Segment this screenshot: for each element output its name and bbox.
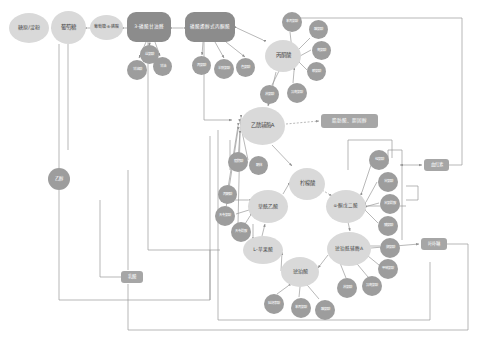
node-sca[interactable]: 琥珀酰辅酶A [327, 232, 371, 266]
node-s27[interactable]: 酪氨酸 [315, 300, 335, 320]
node-s20[interactable]: 脯氨酸 [378, 216, 398, 236]
node-label: 叶卟啉 [427, 242, 441, 247]
node-akg[interactable]: α-酮戊二酸 [326, 190, 366, 223]
node-s8[interactable]: 酪氨酸 [309, 20, 328, 39]
node-label: 酪氨酸 [320, 308, 331, 312]
node-fatchol[interactable]: 脂肪酸、胆固醇 [321, 114, 378, 128]
node-label: 酪氨酸 [313, 28, 324, 32]
node-accoa[interactable]: 乙酰辅酶A [240, 107, 285, 145]
node-s9[interactable]: 亮氨酸 [312, 41, 331, 60]
node-label: 糖原/淀粉 [17, 25, 41, 30]
node-s6[interactable]: 色氨酸 [236, 58, 255, 77]
node-label: 丙氨酸 [196, 64, 207, 68]
node-pyr[interactable]: 丙酮酸 [265, 40, 301, 72]
node-label: 甲硫氨酸 [381, 267, 395, 270]
node-label: 甘油酸 [132, 68, 143, 72]
node-label: 赖氨酸 [311, 70, 322, 74]
node-label: 草酰乙酸 [257, 204, 279, 209]
node-s17[interactable]: 天冬酰胺 [231, 222, 251, 242]
node-label: 丝氨酸 [144, 53, 155, 57]
node-label: 延胡索酸 [267, 302, 281, 305]
node-g1[interactable]: 糖原/淀粉 [9, 13, 49, 43]
node-label: 谷氨酸 [383, 180, 394, 184]
node-s16[interactable]: 天冬氨酸 [215, 206, 235, 226]
node-mal[interactable]: L-苹果酸 [243, 236, 283, 264]
pathway-diagram-canvas: 糖原/淀粉葡萄糖葡萄糖-6-磷酸3-磷酸甘油醛磷酸烯醇式丙酮酸丙酮酸乙酰辅酶A柠… [0, 0, 482, 341]
node-s4[interactable]: 丙氨酸 [192, 56, 211, 75]
node-s15[interactable]: 丙酮酸 [218, 185, 237, 204]
node-label: 天冬酰胺 [234, 230, 248, 233]
node-suc[interactable]: 琥珀酸 [281, 257, 319, 287]
node-s25[interactable]: 苏氨酸 [337, 278, 357, 298]
node-label: 3-磷酸甘油醛 [133, 25, 165, 30]
node-label: 苯丙氨酸 [285, 20, 299, 23]
node-label: L-苹果酸 [252, 247, 273, 252]
node-s11[interactable]: 异亮氨酸 [287, 83, 307, 103]
node-label: 半胱氨酸 [217, 67, 231, 70]
node-s13[interactable]: 脂肪酸 [228, 152, 248, 172]
node-label: 柠檬酸 [299, 181, 316, 187]
node-label: 丙酮酸 [275, 53, 292, 59]
node-label: 脂肪酸 [233, 160, 244, 164]
node-label: 血红素 [430, 163, 444, 168]
node-label: 苯丙氨酸 [294, 306, 308, 309]
node-label: 琥珀酰辅酶A [334, 247, 364, 252]
node-g4[interactable]: 3-磷酸甘油醛 [127, 12, 171, 42]
node-s10[interactable]: 赖氨酸 [307, 62, 326, 81]
node-label: 乳酸 [127, 275, 137, 280]
node-s28[interactable]: 延胡索酸 [264, 294, 284, 314]
node-s5[interactable]: 半胱氨酸 [214, 59, 234, 79]
node-s23[interactable]: 甲硫氨酸 [378, 259, 398, 279]
node-label: 葡萄糖 [60, 25, 77, 31]
node-lactate[interactable]: 乳酸 [121, 271, 143, 283]
node-label: 酮体 [255, 164, 263, 168]
node-s7[interactable]: 苯丙氨酸 [282, 12, 302, 32]
node-label: 苏氨酸 [264, 93, 275, 97]
node-s3[interactable]: 甘油 [153, 57, 172, 76]
node-s2[interactable]: 甘油酸 [127, 60, 147, 80]
node-label: 异亮氨酸 [290, 91, 304, 94]
node-label: 异亮氨酸 [365, 284, 379, 287]
node-ethanol[interactable]: 乙醇 [48, 168, 70, 190]
node-label: 葡萄糖-6-磷酸 [93, 25, 120, 29]
node-cit[interactable]: 柠檬酸 [289, 168, 325, 200]
node-g5[interactable]: 磷酸烯醇式丙酮酸 [185, 12, 235, 42]
node-s12[interactable]: 苏氨酸 [260, 85, 279, 104]
node-label: 甘油 [159, 65, 167, 69]
node-label: 色氨酸 [240, 66, 251, 70]
node-label: 缬氨酸 [385, 246, 396, 250]
node-label: 乙酰辅酶A [250, 123, 276, 129]
node-s26[interactable]: 苯丙氨酸 [291, 298, 311, 318]
node-s22[interactable]: 缬氨酸 [380, 238, 400, 258]
node-label: 丙酮酸 [222, 193, 233, 197]
node-label: 琥珀酸 [292, 269, 309, 274]
node-label: 亮氨酸 [316, 49, 327, 53]
node-g3[interactable]: 葡萄糖-6-磷酸 [90, 15, 123, 40]
node-label: 苏氨酸 [342, 286, 353, 290]
node-label: 磷酸烯醇式丙酮酸 [189, 25, 231, 30]
node-label: 脯氨酸 [383, 224, 394, 228]
node-label: α-酮戊二酸 [333, 204, 360, 209]
node-label: 乙醇 [54, 177, 64, 182]
node-label: 组氨酸 [374, 158, 385, 162]
node-s19[interactable]: 谷氨酰胺 [380, 194, 400, 214]
node-s21[interactable]: 组氨酸 [369, 150, 389, 170]
node-label: 脂肪酸、胆固醇 [331, 119, 368, 124]
node-s14[interactable]: 酮体 [249, 156, 268, 175]
node-porph[interactable]: 叶卟啉 [421, 238, 447, 250]
node-s24[interactable]: 异亮氨酸 [362, 276, 382, 296]
node-label: 天冬氨酸 [218, 214, 232, 217]
node-oaa[interactable]: 草酰乙酸 [248, 190, 288, 223]
node-label: 谷氨酰胺 [383, 202, 397, 205]
node-s18[interactable]: 谷氨酸 [378, 172, 398, 192]
node-heme[interactable]: 血红素 [424, 159, 449, 171]
node-g2[interactable]: 葡萄糖 [51, 11, 86, 44]
